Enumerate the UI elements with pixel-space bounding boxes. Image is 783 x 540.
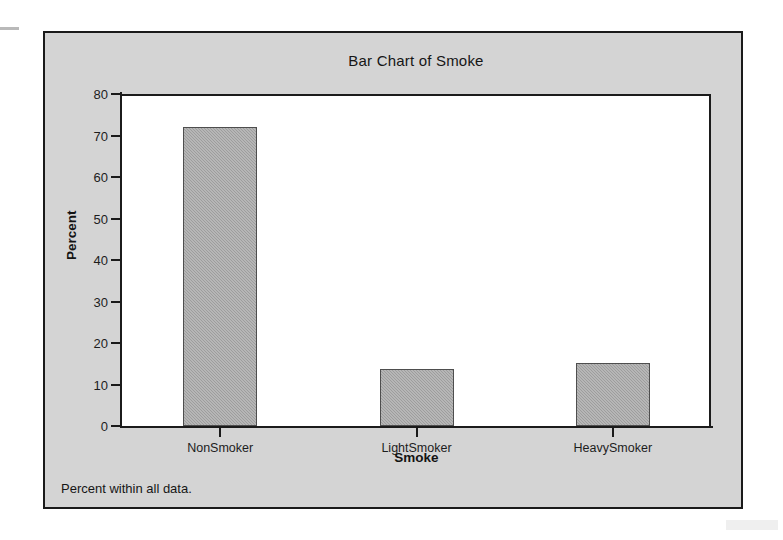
y-axis-tick (111, 384, 120, 386)
y-axis-tick (111, 301, 120, 303)
scan-artifact-smudge (726, 520, 778, 530)
bar-nonsmoker[interactable] (183, 127, 257, 426)
y-axis-tick (111, 342, 120, 344)
y-axis-tick (111, 135, 120, 137)
bar-lightsmoker[interactable] (380, 369, 454, 426)
chart-footnote: Percent within all data. (61, 481, 192, 496)
x-axis-title: Smoke (122, 450, 711, 465)
y-axis-tick-label: 20 (64, 336, 108, 351)
y-axis-line (120, 92, 122, 428)
y-axis-tick (111, 176, 120, 178)
y-axis-tick-label: 30 (64, 294, 108, 309)
y-axis-tick (111, 93, 120, 95)
x-axis-tick (416, 428, 418, 437)
y-axis-tick-label: 70 (64, 128, 108, 143)
bar-heavysmoker[interactable] (576, 363, 650, 426)
y-axis-tick-label: 10 (64, 377, 108, 392)
y-axis-tick-label: 0 (64, 419, 108, 434)
graph-window: Bar Chart of Smoke Percent 0 10 20 30 40… (43, 31, 743, 509)
y-axis-tick-label: 60 (64, 170, 108, 185)
x-axis-tick (219, 428, 221, 437)
y-axis-tick (111, 259, 120, 261)
y-axis-tick (111, 425, 120, 427)
y-axis-tick (111, 218, 120, 220)
scan-artifact-dash (0, 27, 19, 30)
y-axis-tick-label: 80 (64, 87, 108, 102)
x-axis-tick (612, 428, 614, 437)
chart-title: Bar Chart of Smoke (45, 52, 741, 69)
y-axis-tick-label: 50 (64, 211, 108, 226)
plot-region: 0 10 20 30 40 50 60 70 80 NonSmoker Ligh… (122, 94, 711, 426)
y-axis-tick-label: 40 (64, 253, 108, 268)
